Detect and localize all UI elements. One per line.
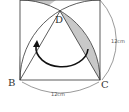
label-b: B: [8, 77, 15, 88]
rotation-arrow: [36, 46, 88, 67]
geometry-diagram: B C D 12cm 12cm: [0, 0, 129, 112]
label-c: C: [101, 79, 109, 90]
label-d: D: [55, 14, 63, 25]
dimension-label-bottom: 12cm: [51, 91, 65, 97]
unshaded-cut: [20, 0, 60, 80]
dimension-label-right: 12cm: [111, 38, 125, 44]
